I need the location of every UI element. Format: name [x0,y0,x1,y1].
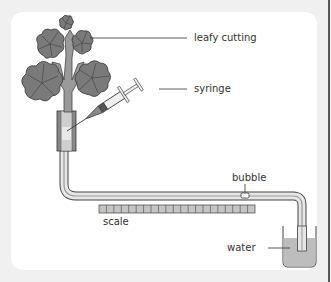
scale-ruler [99,205,255,213]
potometer-diagram [0,0,331,282]
water-beaker [283,226,316,267]
label-scale: scale [103,216,129,227]
bubble-shape [241,193,249,198]
label-syringe: syringe [194,83,231,94]
label-leafy-cutting: leafy cutting [194,32,257,43]
label-water: water [227,242,256,253]
label-bubble: bubble [232,172,266,183]
capillary-tube [64,150,302,244]
rubber-bung [57,111,76,151]
